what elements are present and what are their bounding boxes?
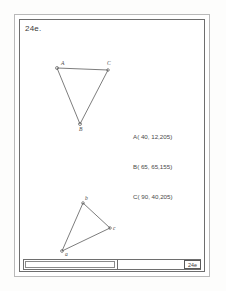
lower-vertex-label-b: b <box>85 195 88 201</box>
upper-vertex-label-b: B <box>79 126 83 132</box>
coordinate-line-b: B( 65, 65,155) <box>133 162 173 172</box>
triangle-drawings: A C B b c a <box>0 0 226 291</box>
upper-vertex-label-c: C <box>107 60 111 66</box>
lower-vertex-label-a: a <box>65 251 68 257</box>
title-block-left-field <box>25 261 115 268</box>
upper-edge-a-b <box>57 68 80 124</box>
lower-triangle-shape <box>61 202 112 253</box>
upper-vertex-label-a: A <box>60 60 65 66</box>
title-block-number: 24e <box>188 262 197 268</box>
lower-edge-c-a <box>62 228 110 251</box>
upper-edge-c-b <box>80 70 108 124</box>
coordinate-line-c: C( 90, 40,205) <box>133 192 173 202</box>
upper-edge-a-c <box>57 68 108 70</box>
title-block-divider <box>117 259 118 270</box>
lower-edge-b-a <box>62 203 83 251</box>
drawing-sheet: 24e. A C B b c a A( 40, 12,205) B( 65, 6… <box>0 0 226 291</box>
title-block-number-box: 24e <box>184 260 201 269</box>
coordinate-line-a: A( 40, 12,205) <box>133 132 173 142</box>
lower-edge-b-c <box>83 203 110 228</box>
coordinate-list: A( 40, 12,205) B( 65, 65,155) C( 90, 40,… <box>133 112 173 222</box>
lower-vertex-label-c: c <box>113 225 116 231</box>
upper-triangle-shape <box>56 67 110 126</box>
